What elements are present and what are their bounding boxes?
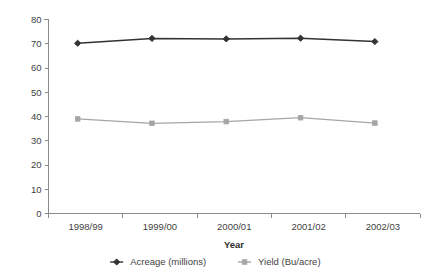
diamond-marker-icon [372,38,378,44]
chart-legend: Acreage (millions)Yield (Bu/acre) [110,256,320,267]
x-axis-tick-label: 1998/99 [68,221,102,232]
y-axis-tick-label: 50 [31,87,42,98]
square-marker-icon [150,121,155,126]
chart-container: 01020304050607080 1998/991999/002000/012… [0,0,444,277]
diamond-marker-icon [297,35,303,41]
diamond-marker-icon [223,36,229,42]
x-axis-tick-label: 2001/02 [291,221,325,232]
legend-diamond-marker-icon [114,259,120,265]
square-marker-icon [373,121,378,126]
x-axis-tick-labels: 1998/991999/002000/012001/022002/03 [68,221,400,232]
diamond-marker-icon [75,40,81,46]
legend-square-marker-icon [242,260,247,265]
y-axis-tick-label: 20 [31,159,42,170]
y-axis-ticks [45,20,49,214]
data-series [75,35,378,46]
line-chart: 01020304050607080 1998/991999/002000/012… [0,0,444,277]
x-axis-tick-label: 2002/03 [366,221,400,232]
square-marker-icon [224,119,229,124]
x-axis-ticks [49,214,421,218]
data-series-layer [75,35,378,126]
legend-item[interactable]: Acreage (millions) [110,256,206,267]
square-marker-icon [298,115,303,120]
y-axis-tick-label: 60 [31,62,42,73]
y-axis-tick-label: 10 [31,184,42,195]
square-marker-icon [75,117,80,122]
x-axis-title: Year [224,239,244,250]
legend-item-label: Acreage (millions) [130,256,206,267]
legend-item-label: Yield (Bu/acre) [258,256,320,267]
data-series [75,115,377,125]
y-axis-tick-label: 40 [31,111,42,122]
diamond-marker-icon [149,35,155,41]
y-axis-tick-label: 80 [31,14,42,25]
y-axis-tick-label: 0 [36,208,41,219]
legend-item[interactable]: Yield (Bu/acre) [238,256,320,267]
y-axis-tick-labels: 01020304050607080 [31,14,42,219]
x-axis-tick-label: 1999/00 [143,221,177,232]
x-axis-tick-label: 2000/01 [217,221,251,232]
y-axis-tick-label: 30 [31,135,42,146]
y-axis-tick-label: 70 [31,38,42,49]
